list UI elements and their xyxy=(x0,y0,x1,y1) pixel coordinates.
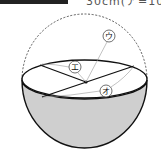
label-e: エ xyxy=(69,61,81,73)
label-e-text: エ xyxy=(71,63,79,72)
label-u-text: ウ xyxy=(105,32,113,41)
label-o: オ xyxy=(100,85,112,97)
label-o-text: オ xyxy=(102,87,110,96)
label-u: ウ xyxy=(103,30,115,42)
hemisphere-diagram: ウ エ オ xyxy=(0,0,161,152)
